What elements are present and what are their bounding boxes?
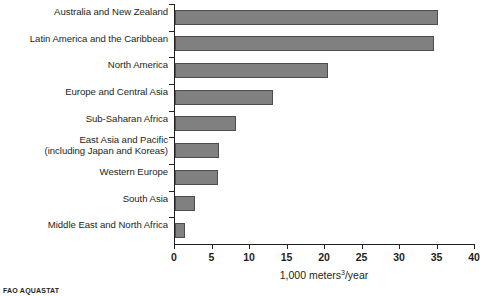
x-axis-title: 1,000 meters3/year [174,269,474,281]
category-label-line2: (including Japan and Koreas) [0,145,168,157]
y-axis-tick [169,164,174,165]
x-axis-tick [399,244,400,249]
category-label-south-asia: South Asia [0,193,168,205]
category-label-line1: Australia and New Zealand [0,6,168,18]
x-axis-tick-label: 0 [154,251,194,263]
x-axis-tick-label: 5 [192,251,232,263]
x-axis-tick-label: 25 [342,251,382,263]
category-label-line1: Europe and Central Asia [0,86,168,98]
bar-row [175,57,475,84]
bar-europe-and-central-asia [175,90,273,105]
bar-south-asia [175,196,195,211]
category-label-middle-east-and-north-africa: Middle East and North Africa [0,219,168,231]
category-label-line1: South Asia [0,193,168,205]
bar-row [175,84,475,111]
category-label-line1: Middle East and North Africa [0,219,168,231]
category-label-east-asia-and-pacific: East Asia and Pacific (including Japan a… [0,134,168,157]
bar-row [175,31,475,58]
x-axis-tick-label: 15 [267,251,307,263]
y-axis-tick [169,137,174,138]
category-label-line1: Latin America and the Caribbean [0,33,168,45]
x-axis-tick [249,244,250,249]
x-axis-tick [212,244,213,249]
y-axis-tick [169,57,174,58]
y-axis-tick [169,191,174,192]
x-axis-tick-label: 40 [454,251,484,263]
bar-row [175,217,475,244]
x-axis-tick [324,244,325,249]
bar-north-america [175,63,328,78]
bar-row [175,191,475,218]
bar-series [175,4,475,244]
x-axis-tick [362,244,363,249]
x-axis-tick [437,244,438,249]
bar-sub-saharan-africa [175,116,236,131]
category-label-sub-saharan-africa: Sub-Saharan Africa [0,113,168,125]
x-axis-tick-label: 35 [417,251,457,263]
bar-row [175,4,475,31]
x-axis-tick [474,244,475,249]
x-axis-title-main: 1,000 meters [280,269,341,281]
y-axis-tick [169,111,174,112]
category-label-north-america: North America [0,59,168,71]
category-label-line1: North America [0,59,168,71]
x-axis-tick-label: 30 [379,251,419,263]
x-axis-tick-label: 10 [229,251,269,263]
y-axis-tick [169,4,174,5]
category-axis-labels: Australia and New Zealand Latin America … [0,4,168,244]
x-axis-tick [174,244,175,249]
bar-latin-america-and-the-caribbean [175,36,434,51]
bar-east-asia-and-pacific [175,143,219,158]
category-label-line1: East Asia and Pacific [0,134,168,146]
category-label-line1: Western Europe [0,166,168,178]
category-label-latin-america-and-the-caribbean: Latin America and the Caribbean [0,33,168,45]
y-axis-tick [169,217,174,218]
category-label-australia-and-new-zealand: Australia and New Zealand [0,6,168,18]
bar-australia-and-new-zealand [175,10,438,25]
x-axis-tick [287,244,288,249]
bar-middle-east-and-north-africa [175,223,185,238]
y-axis-tick [169,84,174,85]
y-axis-tick [169,31,174,32]
source-note: FAO AQUASTAT [3,287,59,294]
category-label-western-europe: Western Europe [0,166,168,178]
bar-row [175,164,475,191]
category-label-europe-and-central-asia: Europe and Central Asia [0,86,168,98]
x-axis-tick-label: 20 [304,251,344,263]
plot-area: 0 5 10 15 20 25 30 35 40 [174,4,474,244]
bar-western-europe [175,170,218,185]
category-label-line1: Sub-Saharan Africa [0,113,168,125]
x-axis-title-tail: /year [345,269,368,281]
bar-row [175,111,475,138]
bar-row [175,137,475,164]
